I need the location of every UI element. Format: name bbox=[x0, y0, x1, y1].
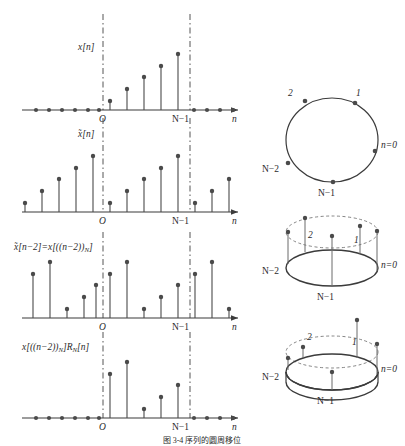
stem-head-2 bbox=[301, 345, 305, 349]
circle-label-2: 2 bbox=[288, 88, 293, 98]
circle-label-nm1: N−1 bbox=[317, 292, 334, 302]
circle-label-nm1: N−1 bbox=[317, 396, 334, 406]
stem-head-nm2 bbox=[286, 230, 290, 234]
circle-label-2: 2 bbox=[307, 332, 312, 342]
circle-label-1: 1 bbox=[356, 88, 361, 98]
plot-original-label: x[n] bbox=[77, 42, 95, 52]
circle-label-nm2: N−2 bbox=[262, 372, 279, 382]
plot-periodic-shifted-label: ̃x[n−2]=x[((n−2))N] bbox=[13, 242, 93, 253]
origin-label: O bbox=[99, 422, 106, 432]
circle-outline bbox=[286, 98, 378, 182]
circle-label-nm2: N−2 bbox=[262, 164, 279, 174]
stem-group bbox=[31, 260, 231, 318]
window-end-label: N−1 bbox=[172, 322, 189, 332]
circle-stems-rotated: n=0 1 2 N−2 N−1 bbox=[262, 318, 397, 406]
figure-circular-shift: x[n] O N−1 n bbox=[0, 0, 405, 446]
x-axis-label: n bbox=[232, 422, 237, 432]
plot-periodic: ̃x[n] O N−1 n bbox=[22, 118, 238, 226]
stem-group bbox=[286, 216, 379, 286]
stem-head-nm1 bbox=[330, 234, 334, 238]
origin-label: O bbox=[99, 322, 106, 332]
stem-head-2 bbox=[303, 216, 307, 220]
circle-label-2: 2 bbox=[308, 230, 313, 240]
plot-original: x[n] O N−1 n bbox=[22, 14, 238, 124]
stem-head-1 bbox=[355, 318, 359, 322]
x-axis-label: n bbox=[232, 322, 237, 332]
circle-label-nm1: N−1 bbox=[318, 188, 335, 198]
circle-label-1: 1 bbox=[352, 337, 357, 347]
origin-label: O bbox=[99, 216, 106, 226]
stem-head-n0 bbox=[375, 342, 379, 346]
x-axis-label: n bbox=[232, 114, 237, 124]
sample-point-2 bbox=[303, 99, 308, 104]
circle-label-n0: n=0 bbox=[381, 140, 397, 150]
circle-label-nm2: N−2 bbox=[262, 266, 279, 276]
figure-canvas: x[n] O N−1 n bbox=[0, 0, 405, 446]
sample-point-nm1 bbox=[331, 180, 336, 185]
stem-head-n0 bbox=[375, 229, 379, 233]
sample-point-n0 bbox=[373, 149, 378, 154]
x-axis-label: n bbox=[232, 216, 237, 226]
window-end-label: N−1 bbox=[172, 216, 189, 226]
upper-envelope-dashed bbox=[286, 336, 378, 368]
circle-label-n0: n=0 bbox=[381, 364, 397, 374]
stem-head-nm2 bbox=[286, 356, 290, 360]
window-end-label: N−1 bbox=[172, 422, 189, 432]
x-axis-arrow bbox=[231, 209, 238, 215]
sample-point-1 bbox=[353, 101, 358, 106]
circle-label-1: 1 bbox=[354, 235, 359, 245]
stem-head-nm1 bbox=[330, 370, 334, 374]
sample-point-nm2 bbox=[286, 161, 291, 166]
circle-stems-original: n=0 1 2 N−2 N−1 bbox=[262, 216, 397, 302]
x-axis-arrow bbox=[231, 315, 238, 321]
circle-flat: n=0 1 2 N−2 N−1 bbox=[262, 88, 397, 198]
figure-caption: 图 3-4 序列的圆周移位 bbox=[163, 435, 242, 445]
circle-label-n0: n=0 bbox=[381, 260, 397, 270]
stem-group bbox=[108, 360, 180, 418]
stem-group bbox=[23, 154, 231, 212]
plot-periodic-label: ̃x[n] bbox=[77, 129, 95, 139]
plot-windowed: x[((n−2))N]RN[n] O N−1 n bbox=[21, 332, 238, 432]
stem-head-1 bbox=[358, 224, 362, 228]
stem-group bbox=[108, 52, 180, 110]
plot-periodic-shifted: ̃x[n−2]=x[((n−2))N] O N−1 n bbox=[13, 232, 238, 332]
plot-windowed-label: x[((n−2))N]RN[n] bbox=[21, 342, 90, 353]
window-end-label: N−1 bbox=[172, 114, 189, 124]
